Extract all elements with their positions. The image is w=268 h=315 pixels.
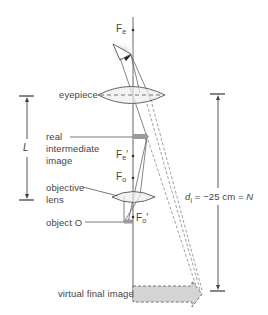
fe-subscript: e xyxy=(122,28,126,35)
label-object-o: object O xyxy=(46,217,82,228)
real-image-line3: image xyxy=(46,155,99,167)
focal-point-fe-prime xyxy=(132,155,135,158)
label-real-intermediate-image: real intermediate image xyxy=(46,131,99,167)
object-o xyxy=(124,220,133,224)
fo-prime-mark: ′ xyxy=(146,212,148,223)
focal-point-fe xyxy=(132,29,135,32)
eye-icon xyxy=(109,41,135,63)
label-tube-length: L xyxy=(23,142,29,153)
leader-objective xyxy=(83,187,118,196)
virtual-final-image xyxy=(133,281,202,307)
label-fo: Fo xyxy=(116,171,126,185)
label-image-distance: di = −25 cm = N xyxy=(185,191,253,206)
real-intermediate-image xyxy=(133,134,145,139)
focal-point-fo xyxy=(132,177,135,180)
label-fo-prime: Fo′ xyxy=(136,212,148,226)
di-equation: = −25 cm = xyxy=(192,191,246,202)
label-objective-lens: objective lens xyxy=(46,182,84,206)
near-point-symbol: N xyxy=(246,191,253,202)
real-image-line2: intermediate xyxy=(46,143,99,155)
focal-point-fo-prime xyxy=(132,216,135,219)
label-fe-prime: Fe′ xyxy=(116,149,128,163)
label-fe: Fe xyxy=(116,23,126,37)
real-image-line1: real xyxy=(46,131,99,143)
fo-subscript: o xyxy=(122,176,126,183)
label-eyepiece: eyepiece xyxy=(59,89,98,100)
microscope-ray-diagram xyxy=(0,0,268,315)
objective-lens xyxy=(112,192,155,203)
label-virtual-final-image: virtual final image xyxy=(58,288,134,299)
fe-prime-mark: ′ xyxy=(126,149,128,160)
objective-line1: objective xyxy=(46,182,84,194)
objective-line2: lens xyxy=(46,194,84,206)
